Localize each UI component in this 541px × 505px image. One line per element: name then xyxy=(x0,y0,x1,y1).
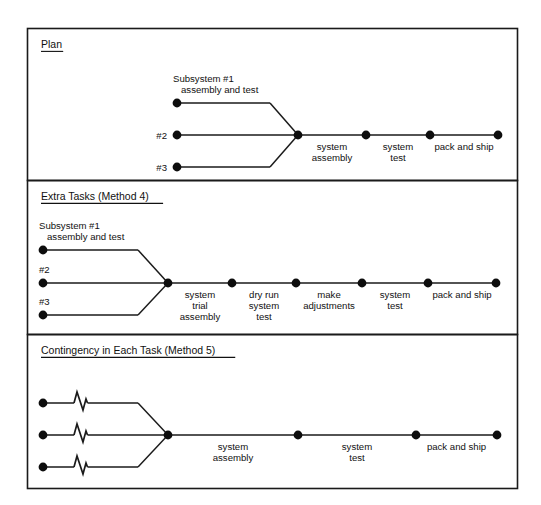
merge-line-subsystem-1 xyxy=(138,403,168,435)
panel-contingency: Contingency in Each Task (Method 5)syste… xyxy=(28,335,518,489)
node-dot-subsystem-1[interactable] xyxy=(173,99,182,108)
node-dot-system-test[interactable] xyxy=(362,131,371,140)
chain-label-system-test: test xyxy=(390,152,406,163)
chain-label-dry-run-system-test: dry run xyxy=(249,289,279,300)
node-dot-system-test[interactable] xyxy=(358,279,367,288)
input-branch-subsystem-1: Subsystem #1assembly and test xyxy=(39,220,168,283)
node-dot-system-assembly[interactable] xyxy=(294,131,303,140)
input-label-subsystem-2: #2 xyxy=(39,264,50,275)
panel-title-plan: Plan xyxy=(41,38,62,50)
node-dot-subsystem-1[interactable] xyxy=(39,246,48,255)
merge-line-subsystem-3 xyxy=(270,135,298,167)
node-dot-subsystem-2[interactable] xyxy=(39,279,48,288)
input-branch-subsystem-3: #3 xyxy=(39,283,168,319)
node-dot-subsystem-1[interactable] xyxy=(39,399,48,408)
chain-label-system-assembly: system xyxy=(317,141,347,152)
panel-extra-tasks: Extra Tasks (Method 4)Subsystem #1assemb… xyxy=(28,181,518,335)
node-dot-subsystem-2[interactable] xyxy=(173,131,182,140)
input-label-subsystem-1: Subsystem #1 xyxy=(173,73,234,84)
input-label-subsystem-1: assembly and test xyxy=(181,84,259,95)
input-label-subsystem-2: #2 xyxy=(156,130,167,141)
node-dot-system-test[interactable] xyxy=(294,431,303,440)
input-branch-subsystem-3: #3 xyxy=(156,135,298,173)
contingency-break-icon xyxy=(74,424,88,442)
node-dot-subsystem-3[interactable] xyxy=(173,163,182,172)
node-dot-pack-and-ship[interactable] xyxy=(412,431,421,440)
chain-label-dry-run-system-test: test xyxy=(256,311,272,322)
diagram-canvas: PlanSubsystem #1assembly and test#2#3sys… xyxy=(0,0,541,505)
chain-label-system-test: test xyxy=(349,452,365,463)
schedule-network-diagram: PlanSubsystem #1assembly and test#2#3sys… xyxy=(0,0,541,505)
node-dot-system-assembly[interactable] xyxy=(164,431,173,440)
node-dot-end-node[interactable] xyxy=(493,431,502,440)
chain-label-pack-and-ship: pack and ship xyxy=(427,441,486,452)
node-dot-subsystem-2[interactable] xyxy=(39,431,48,440)
chain-label-system-trial-assembly: trial xyxy=(192,300,207,311)
node-dot-make-adjustments[interactable] xyxy=(292,279,301,288)
node-dot-system-trial-assembly[interactable] xyxy=(164,279,173,288)
input-label-subsystem-3: #3 xyxy=(156,162,167,173)
panel-title-contingency: Contingency in Each Task (Method 5) xyxy=(41,344,215,356)
chain-label-pack-and-ship: pack and ship xyxy=(432,289,491,300)
node-dot-pack-and-ship[interactable] xyxy=(426,131,435,140)
input-label-subsystem-1: assembly and test xyxy=(47,231,125,242)
input-branch-subsystem-3 xyxy=(39,435,168,474)
node-dot-subsystem-3[interactable] xyxy=(39,311,48,320)
chain-label-dry-run-system-test: system xyxy=(249,300,279,311)
input-branch-subsystem-2 xyxy=(39,424,168,442)
chain-label-system-assembly: assembly xyxy=(213,452,254,463)
input-branch-subsystem-1: Subsystem #1assembly and test xyxy=(173,73,298,135)
chain-label-system-trial-assembly: assembly xyxy=(180,311,221,322)
merge-line-subsystem-1 xyxy=(138,250,168,283)
node-dot-dry-run-system-test[interactable] xyxy=(228,279,237,288)
input-branch-subsystem-2: #2 xyxy=(39,264,168,287)
node-dot-end-node[interactable] xyxy=(494,131,503,140)
input-branch-subsystem-1 xyxy=(39,392,168,435)
chain-label-system-assembly: assembly xyxy=(312,152,353,163)
chain-label-system-trial-assembly: system xyxy=(185,289,215,300)
chain-label-make-adjustments: adjustments xyxy=(303,300,355,311)
panel-title-extra-tasks: Extra Tasks (Method 4) xyxy=(41,190,149,202)
chain-label-system-test: system xyxy=(383,141,413,152)
panel-plan: PlanSubsystem #1assembly and test#2#3sys… xyxy=(28,29,518,181)
node-dot-subsystem-3[interactable] xyxy=(39,463,48,472)
merge-line-subsystem-3 xyxy=(138,283,168,315)
chain-label-system-assembly: system xyxy=(218,441,248,452)
chain-label-system-test: test xyxy=(387,300,403,311)
chain-label-pack-and-ship: pack and ship xyxy=(434,141,493,152)
panel-frame-plan xyxy=(28,29,518,181)
input-label-subsystem-3: #3 xyxy=(39,296,50,307)
merge-line-subsystem-1 xyxy=(270,103,298,135)
chain-label-make-adjustments: make xyxy=(317,289,340,300)
contingency-break-icon xyxy=(74,392,88,410)
contingency-break-icon xyxy=(74,456,88,474)
chain-label-system-test: system xyxy=(380,289,410,300)
input-branch-subsystem-2: #2 xyxy=(156,130,298,141)
node-dot-pack-and-ship[interactable] xyxy=(424,279,433,288)
chain-label-system-test: system xyxy=(342,441,372,452)
node-dot-end-node[interactable] xyxy=(492,279,501,288)
input-label-subsystem-1: Subsystem #1 xyxy=(39,220,100,231)
merge-line-subsystem-3 xyxy=(138,435,168,467)
